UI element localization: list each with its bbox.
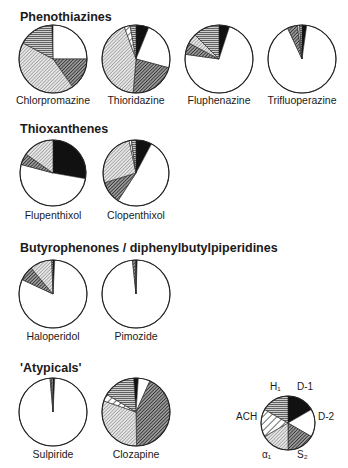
pie-pimozide (102, 260, 170, 328)
pie-haloperidol (19, 260, 87, 328)
pie-sulpiride (19, 378, 87, 446)
pie-chart-canvas (0, 0, 348, 468)
pie-legend (261, 396, 315, 450)
pie-trifluoperazine (268, 25, 336, 93)
pie-thioridazine (102, 25, 170, 93)
pie-fluphenazine (185, 25, 253, 93)
pie-chlorpromazine (19, 25, 87, 93)
pie-clozapine (102, 378, 170, 446)
slice-d1 (53, 140, 86, 179)
pie-flupenthixol (20, 140, 86, 206)
pie-clopenthixol (103, 140, 169, 206)
